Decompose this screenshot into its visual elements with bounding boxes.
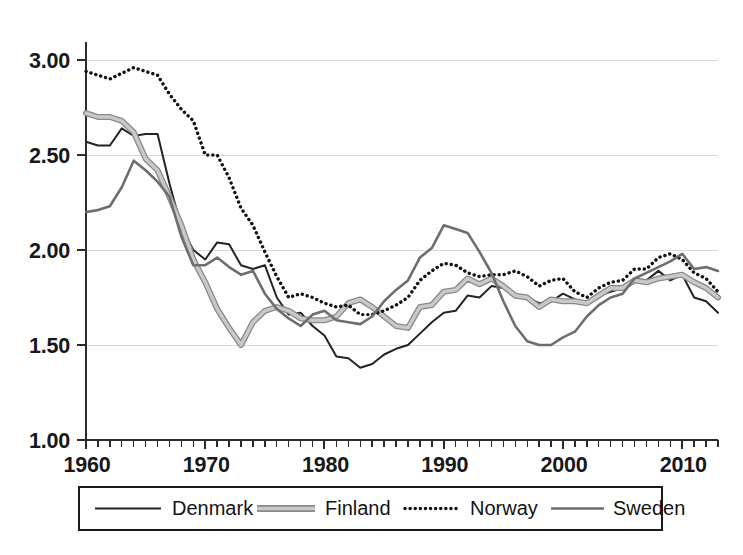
series-line-finland-outline [86, 113, 718, 345]
data-series-group [86, 68, 718, 368]
y-axis [77, 42, 86, 440]
y-tick-label: 1.50 [29, 334, 70, 358]
fertility-rate-line-chart: 1.001.502.002.503.00 1960197019801990200… [0, 0, 743, 555]
legend-label-denmark: Denmark [172, 497, 254, 519]
x-axis [86, 440, 718, 449]
x-tick-label: 1970 [183, 453, 230, 477]
y-tick-label: 1.00 [29, 429, 70, 453]
legend-label-sweden: Sweden [613, 497, 685, 519]
y-tick-labels: 1.001.502.002.503.00 [29, 49, 70, 453]
y-tick-label: 2.00 [29, 239, 70, 263]
y-tick-label: 2.50 [29, 144, 70, 168]
x-tick-label: 1980 [302, 453, 349, 477]
series-line-sweden [86, 161, 718, 345]
x-tick-label: 1960 [63, 453, 110, 477]
legend: DenmarkFinlandNorwaySweden [79, 487, 685, 530]
x-tick-label: 2000 [540, 453, 587, 477]
x-tick-label: 1990 [421, 453, 468, 477]
chart-container: 1.001.502.002.503.00 1960197019801990200… [0, 0, 743, 555]
legend-label-finland: Finland [325, 497, 391, 519]
y-tick-label: 3.00 [29, 49, 70, 73]
legend-label-norway: Norway [470, 497, 538, 519]
series-line-denmark [86, 128, 718, 367]
x-tick-labels: 196019701980199020002010 [63, 453, 706, 477]
x-tick-label: 2010 [660, 453, 707, 477]
series-line-norway [86, 68, 718, 315]
